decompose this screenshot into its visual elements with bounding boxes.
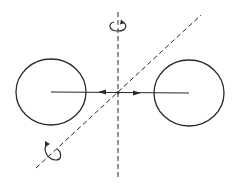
rotation-arrow-icon-diagonal (45, 141, 61, 160)
connecting-line (51, 92, 189, 93)
center-point (116, 91, 119, 94)
arrow-left-icon (98, 90, 106, 95)
diagram-svg (0, 0, 239, 188)
diagram-canvas: Two spheres with connecting axis and rot… (0, 0, 239, 188)
arrow-right-icon (133, 91, 141, 96)
